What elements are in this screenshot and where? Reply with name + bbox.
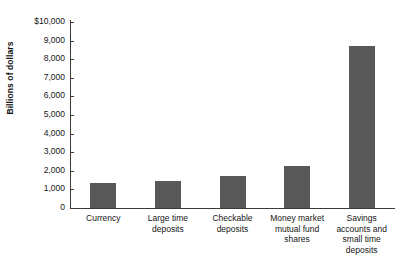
y-axis-tick-label: 2,000 — [44, 165, 65, 175]
y-axis-tick-label: 6,000 — [44, 90, 65, 100]
x-axis-category-label: Checkabledeposits — [200, 213, 265, 234]
y-axis-tick-label: 5,000 — [44, 109, 65, 119]
y-axis-tick: 0 — [0, 208, 415, 209]
x-axis-category-label: Currency — [71, 213, 136, 224]
x-axis-category-label-line: Checkable — [200, 213, 265, 224]
y-axis-tick-label: 0 — [60, 202, 65, 212]
y-axis-tick-mark — [70, 115, 74, 116]
y-axis-tick-mark — [70, 171, 74, 172]
y-axis-tick-mark — [70, 78, 74, 79]
bar — [220, 176, 246, 208]
x-axis-category-label-line: deposits — [200, 224, 265, 235]
bar — [349, 46, 375, 208]
y-axis-tick-label: 4,000 — [44, 128, 65, 138]
y-axis-tick-mark — [70, 208, 74, 209]
bar — [90, 183, 116, 208]
y-axis-tick-label: 1,000 — [44, 183, 65, 193]
y-axis-tick-label: 7,000 — [44, 72, 65, 82]
x-axis-category-label-line: deposits — [329, 245, 394, 256]
y-axis-tick-label: 8,000 — [44, 53, 65, 63]
y-axis-tick-mark — [70, 41, 74, 42]
x-axis-category-label-line: Savings — [329, 213, 394, 224]
x-axis-category-label-line: deposits — [136, 224, 201, 235]
y-axis-tick-mark — [70, 96, 74, 97]
x-axis-category-label-line: mutual fund — [265, 224, 330, 235]
x-axis-category-label-line: accounts and — [329, 224, 394, 235]
y-axis-tick-mark — [70, 59, 74, 60]
x-axis-category-label: Money marketmutual fundshares — [265, 213, 330, 245]
y-axis-tick: $10,000 — [0, 22, 415, 23]
y-axis-tick-mark — [70, 189, 74, 190]
x-axis-category-label-line: small time — [329, 234, 394, 245]
x-axis-category-label-line: Money market — [265, 213, 330, 224]
bar — [155, 181, 181, 208]
y-axis-tick-mark — [70, 22, 74, 23]
y-axis-tick-mark — [70, 134, 74, 135]
y-axis-tick-mark — [70, 152, 74, 153]
y-axis-tick-label: 3,000 — [44, 146, 65, 156]
x-axis-category-label: Large timedeposits — [136, 213, 201, 234]
plot-area: 01,0002,0003,0004,0005,0006,0007,0008,00… — [0, 0, 415, 274]
y-axis-tick-label: 9,000 — [44, 35, 65, 45]
x-axis-category-label-line: Currency — [71, 213, 136, 224]
x-axis-category-label-line: shares — [265, 234, 330, 245]
y-axis-tick: 9,000 — [0, 41, 415, 42]
x-axis-category-label: Savingsaccounts andsmall timedeposits — [329, 213, 394, 255]
x-axis-category-label-line: Large time — [136, 213, 201, 224]
y-axis-tick-label: $10,000 — [34, 16, 65, 26]
bar-chart: Billions of dollars 01,0002,0003,0004,00… — [0, 0, 415, 274]
bar — [284, 166, 310, 208]
